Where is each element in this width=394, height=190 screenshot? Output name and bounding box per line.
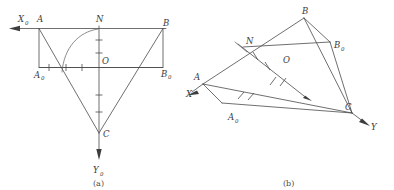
label-point-b0-subscript: 0 [168, 74, 172, 80]
a0c-tick-1 [248, 93, 254, 100]
label-point-b: B [301, 6, 308, 16]
axis-x0-arrowhead [9, 26, 20, 31]
figure-svg: X 0 A N B A 0 O B 0 C Y 0 (a) [0, 0, 394, 190]
label-y0-subscript: 0 [100, 171, 104, 177]
segment-b-c [99, 29, 163, 134]
label-point-b0-subscript: 0 [341, 46, 345, 52]
label-point-c: C [103, 129, 110, 139]
a0c-tick-2 [238, 92, 244, 99]
label-point-n: N [245, 36, 254, 46]
panel-b: B B 0 N O A A 0 C X Y (b) [185, 6, 378, 188]
label-x0: X [17, 14, 25, 24]
label-point-b0: B [333, 40, 340, 50]
label-point-b: B [162, 18, 169, 28]
segment-n-line [238, 44, 304, 96]
segment-b-c [304, 18, 352, 113]
figure-root: X 0 A N B A 0 O B 0 C Y 0 (a) [0, 0, 394, 190]
segment-a-b [203, 18, 304, 84]
ac-direction-arrow [303, 96, 312, 102]
label-point-a0: A [33, 70, 40, 80]
segment-a-c [203, 84, 352, 113]
label-point-n: N [95, 14, 104, 24]
arc-curve [62, 29, 98, 72]
label-point-o: O [283, 55, 290, 65]
segment-a0-c [222, 103, 352, 113]
label-x0-subscript: 0 [25, 20, 29, 26]
axis-y0-arrowhead [96, 149, 101, 160]
label-y0: Y [93, 165, 100, 175]
segment-a-c [39, 29, 99, 134]
label-point-a: A [36, 14, 43, 24]
caption-a: (a) [93, 179, 104, 188]
caption-b: (b) [283, 179, 294, 188]
label-point-a: A [193, 72, 200, 82]
label-point-b0: B [160, 69, 167, 79]
panel-a: X 0 A N B A 0 O B 0 C Y 0 (a) [9, 14, 172, 188]
segment-b-b0 [304, 18, 330, 42]
label-point-a0-subscript: 0 [235, 118, 239, 124]
label-point-o: O [102, 56, 109, 66]
label-y: Y [371, 122, 378, 132]
axis-x-line [192, 84, 203, 92]
label-point-c: C [345, 102, 352, 112]
ac-tick-1 [270, 77, 276, 85]
label-point-a0-subscript: 0 [41, 75, 45, 81]
label-x: X [185, 89, 193, 99]
label-point-a0: A [227, 112, 234, 122]
